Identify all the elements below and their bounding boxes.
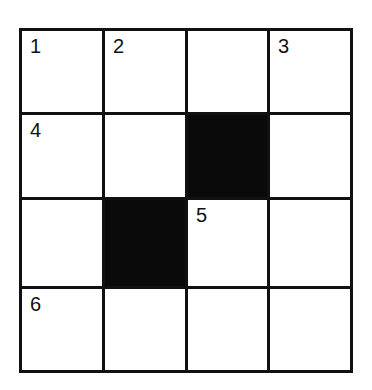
clue-number: 1 [30, 36, 41, 56]
crossword-cell-r2-c3[interactable] [270, 200, 350, 289]
crossword-cell-r3-c3[interactable] [270, 289, 350, 370]
crossword-cell-r3-c1[interactable] [105, 289, 188, 370]
crossword-cell-r0-c1[interactable]: 2 [105, 31, 188, 115]
clue-number: 6 [30, 294, 41, 314]
clue-number: 2 [113, 36, 124, 56]
crossword-cell-r2-c0[interactable] [22, 200, 105, 289]
crossword-block-r2-c1 [105, 200, 188, 289]
clue-number: 5 [196, 205, 207, 225]
crossword-block-r1-c2 [188, 115, 270, 200]
crossword-cell-r0-c0[interactable]: 1 [22, 31, 105, 115]
crossword-cell-r2-c2[interactable]: 5 [188, 200, 270, 289]
crossword-cell-r0-c3[interactable]: 3 [270, 31, 350, 115]
crossword-grid: 1 2 3 4 5 6 [19, 28, 353, 373]
crossword-cell-r3-c0[interactable]: 6 [22, 289, 105, 370]
clue-number: 3 [278, 36, 289, 56]
crossword-cell-r0-c2[interactable] [188, 31, 270, 115]
clue-number: 4 [30, 120, 41, 140]
crossword-cell-r3-c2[interactable] [188, 289, 270, 370]
crossword-cell-r1-c0[interactable]: 4 [22, 115, 105, 200]
crossword-cell-r1-c1[interactable] [105, 115, 188, 200]
crossword-cell-r1-c3[interactable] [270, 115, 350, 200]
